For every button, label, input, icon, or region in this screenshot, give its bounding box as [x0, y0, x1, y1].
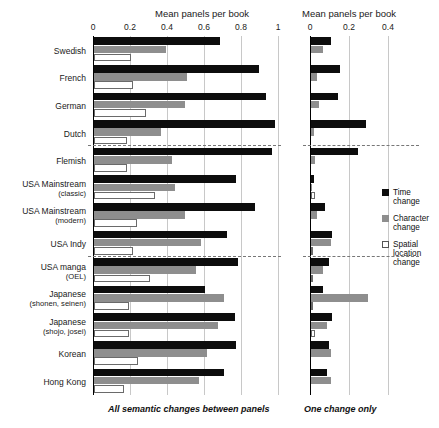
bar-character [94, 156, 172, 164]
category-label-sub: (shojo, josei) [0, 327, 86, 337]
bar-time [94, 148, 272, 156]
category-label: Hong Kong [0, 377, 86, 387]
category-label-main: USA Mainstream [22, 206, 86, 216]
bar-character [94, 46, 166, 54]
category-label-main: Japanese [49, 317, 86, 327]
bar-character [94, 239, 201, 247]
bar-character [311, 239, 331, 247]
category-label-sub: (modern) [0, 216, 86, 226]
category-label-main: USA manga [41, 262, 86, 272]
category-label-sub: (OEL) [0, 272, 86, 282]
bar-spatial [94, 302, 129, 310]
x-tick-label: 0 [91, 22, 96, 32]
category-label: USA Mainstream(modern) [0, 206, 86, 226]
right-panel-caption: One change only [304, 404, 377, 414]
bar-time [311, 175, 314, 183]
bar-time [311, 313, 332, 321]
bar-character [94, 73, 187, 81]
bar-time [94, 65, 259, 73]
chart-legend: Time changeCharacter changeSpatial locat… [382, 188, 439, 275]
category-label-main: Hong Kong [43, 377, 86, 387]
x-tick-label: 1 [276, 22, 281, 32]
bar-spatial [94, 275, 150, 283]
category-label: USA Indy [0, 239, 86, 249]
category-label: Flemish [0, 156, 86, 166]
bar-time [311, 258, 329, 266]
bar-character [311, 377, 331, 385]
bar-time [311, 369, 327, 377]
legend-label: Spatial location change [393, 240, 421, 268]
bar-spatial [94, 81, 133, 89]
bar-spatial [311, 302, 313, 310]
bar-time [311, 286, 323, 294]
bar-character [311, 184, 312, 192]
bar-character [94, 266, 196, 274]
bar-time [311, 65, 340, 73]
bar-character [311, 266, 323, 274]
group-separator [303, 145, 419, 146]
category-label-main: French [60, 73, 86, 83]
category-label: German [0, 101, 86, 111]
legend-swatch-character-icon [382, 215, 389, 222]
category-label: USA Mainstream(classic) [0, 179, 86, 199]
legend-item[interactable]: Spatial location change [382, 240, 439, 268]
bar-spatial [94, 109, 146, 117]
category-label-main: Flemish [56, 156, 86, 166]
bar-character [311, 46, 323, 54]
bar-character [94, 211, 185, 219]
bar-spatial [311, 275, 313, 283]
category-label-main: USA Mainstream [22, 179, 86, 189]
bar-character [94, 101, 185, 109]
category-label-main: Japanese [49, 289, 86, 299]
legend-item[interactable]: Character change [382, 214, 439, 233]
legend-label: Time change [393, 188, 420, 206]
bar-spatial [94, 54, 131, 62]
bar-time [94, 120, 275, 128]
legend-swatch-spatial-icon [382, 241, 389, 248]
bar-time [311, 203, 325, 211]
x-tick-label: 0.4 [382, 22, 394, 32]
x-tick-label: 0 [308, 22, 313, 32]
gridline [349, 36, 350, 395]
category-label-sub: (classic) [0, 189, 86, 199]
gridline [241, 36, 242, 395]
legend-label: Character change [393, 214, 429, 232]
bar-time [94, 93, 266, 101]
bar-time [311, 37, 331, 45]
bar-time [311, 231, 332, 239]
category-label: French [0, 73, 86, 83]
bar-character [311, 101, 319, 109]
category-label-main: Korean [59, 349, 86, 359]
legend-item[interactable]: Time change [382, 188, 439, 207]
bar-spatial [94, 330, 129, 338]
category-label-main: Dutch [64, 129, 86, 139]
bar-character [94, 322, 218, 330]
bar-time [94, 341, 236, 349]
bar-time [311, 93, 338, 101]
category-label-main: Swedish [54, 46, 86, 56]
bar-character [311, 128, 314, 136]
bar-spatial [94, 164, 127, 172]
bar-character [94, 128, 161, 136]
gridline [278, 36, 279, 395]
bar-character [311, 211, 317, 219]
group-separator [88, 145, 281, 146]
bar-time [94, 286, 205, 294]
x-tick-label: 0.6 [198, 22, 210, 32]
bar-spatial [94, 137, 127, 145]
category-label: Swedish [0, 46, 86, 56]
bar-spatial [94, 192, 155, 200]
bar-spatial [94, 385, 124, 393]
bar-character [94, 184, 175, 192]
bar-character [311, 156, 315, 164]
bar-character [311, 322, 327, 330]
x-tick-label: 0.2 [343, 22, 355, 32]
left-axis-title: Mean panels per book [155, 8, 249, 19]
bar-character [94, 377, 199, 385]
left-panel-plot [93, 36, 278, 395]
group-separator [88, 256, 281, 257]
bar-time [94, 258, 238, 266]
bar-character [311, 294, 368, 302]
category-label: Korean [0, 349, 86, 359]
x-tick-label: 0.4 [161, 22, 173, 32]
